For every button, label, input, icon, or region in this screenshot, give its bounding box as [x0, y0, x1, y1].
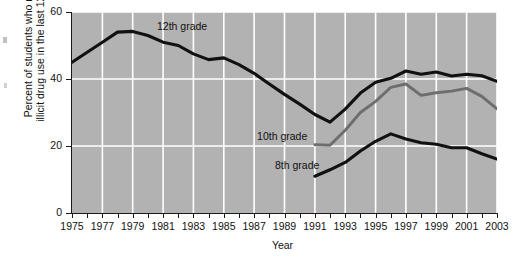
x-tick — [315, 213, 316, 218]
x-tick — [452, 213, 453, 218]
y-tick — [66, 146, 72, 147]
plot-svg — [72, 12, 497, 213]
x-tick — [102, 213, 103, 218]
x-tick — [360, 213, 361, 218]
x-tick-label: 1979 — [116, 220, 150, 232]
gridlines — [72, 12, 497, 213]
x-tick — [285, 213, 286, 218]
x-tick — [421, 213, 422, 218]
x-tick — [345, 213, 346, 218]
x-tick — [406, 213, 407, 218]
x-tick — [239, 213, 240, 218]
x-tick-label: 1983 — [176, 220, 210, 232]
x-tick — [209, 213, 210, 218]
y-tick-label: 40 — [36, 72, 62, 84]
x-tick-label: 1999 — [419, 220, 453, 232]
x-tick — [269, 213, 270, 218]
x-tick-label: 2003 — [480, 220, 514, 232]
x-tick-label: 1991 — [298, 220, 332, 232]
x-tick — [118, 213, 119, 218]
chart-figure: Percent of students who reported illicit… — [0, 0, 532, 265]
x-tick-label: 1975 — [55, 220, 89, 232]
x-tick — [436, 213, 437, 218]
x-tick-label: 1977 — [85, 220, 119, 232]
x-tick — [482, 213, 483, 218]
x-tick-label: 1993 — [328, 220, 362, 232]
x-tick — [178, 213, 179, 218]
scan-artifact — [4, 83, 7, 88]
x-tick — [87, 213, 88, 218]
x-tick-label: 1985 — [207, 220, 241, 232]
x-tick — [391, 213, 392, 218]
x-tick — [133, 213, 134, 218]
x-tick — [224, 213, 225, 218]
y-axis-title-line1: Percent of students who reported — [22, 0, 35, 117]
y-tick-label: 0 — [36, 206, 62, 218]
series-annotation-12th-grade: 12th grade — [157, 20, 207, 32]
x-tick — [254, 213, 255, 218]
x-tick-label: 1995 — [359, 220, 393, 232]
plot-area — [72, 12, 497, 213]
y-tick — [66, 79, 72, 80]
x-tick — [193, 213, 194, 218]
x-tick-label: 1989 — [268, 220, 302, 232]
x-tick — [300, 213, 301, 218]
x-axis-title-text: Year — [272, 239, 293, 251]
x-tick-label: 1981 — [146, 220, 180, 232]
x-tick-label: 2001 — [450, 220, 484, 232]
x-tick — [148, 213, 149, 218]
series-annotation-8th-grade: 8th grade — [275, 159, 319, 171]
y-tick-label: 20 — [36, 139, 62, 151]
y-axis-title-line2: illicit drug use in the last 12 months — [34, 0, 47, 122]
x-axis-title: Year — [0, 239, 532, 251]
y-axis-line — [71, 12, 72, 214]
x-tick-label: 1987 — [237, 220, 271, 232]
x-tick — [72, 213, 73, 218]
y-tick-label: 60 — [36, 5, 62, 17]
x-tick — [330, 213, 331, 218]
y-tick — [66, 12, 72, 13]
x-tick — [467, 213, 468, 218]
scan-artifact — [3, 37, 7, 43]
y-axis-title: Percent of students who reported illicit… — [18, 0, 50, 140]
x-tick — [497, 213, 498, 218]
x-tick — [163, 213, 164, 218]
x-tick-label: 1997 — [389, 220, 423, 232]
x-tick — [376, 213, 377, 218]
series-annotation-10th-grade: 10th grade — [257, 130, 307, 142]
